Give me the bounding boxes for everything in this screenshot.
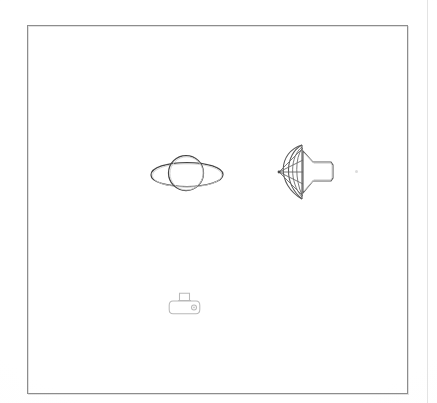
figure-ringed-planet (145, 148, 229, 200)
page-edge-rule (427, 0, 428, 403)
payload-nozzle (303, 151, 333, 193)
scanned-page (0, 0, 437, 403)
planet-ring (151, 163, 223, 187)
device-top-tab (178, 293, 191, 300)
figure-faint-speck (355, 170, 359, 174)
shroud-confluence-point (278, 171, 281, 174)
device-port-circle (192, 305, 197, 310)
speck-dot (355, 170, 358, 173)
device-body (169, 301, 200, 314)
planet-body (169, 156, 204, 191)
figure-small-device (168, 291, 202, 317)
figure-parachute-payload (276, 142, 338, 204)
drawing-border (27, 25, 408, 394)
